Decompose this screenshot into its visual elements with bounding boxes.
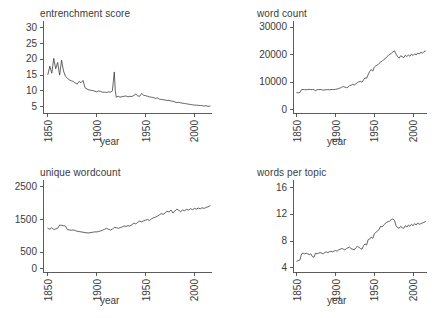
series-line-entrenchment-score: [48, 58, 210, 106]
xaxis-ticks-words-per-topic: 1850190019502000: [292, 272, 419, 301]
axes-entrenchment-score: [43, 21, 212, 113]
ytick-label: 4: [281, 262, 287, 273]
yaxis-ticks-entrenchment-score: 51015202530: [26, 22, 43, 112]
xaxis-ticks-entrenchment-score: 1850190019502000: [43, 113, 201, 142]
ytick-label: 8: [281, 235, 287, 246]
xtick-label: 2000: [408, 120, 419, 143]
xtick-label: 1850: [43, 120, 54, 143]
ytick-label: 10000: [259, 76, 287, 87]
yaxis-ticks-word-count: 0100002000030000: [259, 21, 293, 115]
xtick-label: 2000: [189, 279, 200, 302]
ytick-label: 15: [26, 69, 38, 80]
xtick-label: 1950: [141, 279, 152, 302]
xaxis-label-unique-wordcount: year: [100, 295, 119, 306]
chart-svg-word-count: 01000020000300001850190019502000: [215, 0, 435, 159]
ytick-label: 0: [281, 104, 287, 115]
xtick-label: 2000: [189, 120, 200, 143]
xaxis-label-word-count: year: [327, 136, 346, 147]
xaxis-label-entrenchment-score: year: [100, 136, 119, 147]
ytick-label: 0: [31, 263, 37, 274]
xtick-label: 2000: [408, 279, 419, 302]
plot-word-count: 01000020000300001850190019502000: [215, 0, 435, 159]
xaxis-ticks-word-count: 1850190019502000: [292, 113, 419, 142]
ytick-label: 30000: [259, 21, 287, 32]
xtick-label: 1950: [369, 279, 380, 302]
ytick-label: 25: [26, 38, 38, 49]
ytick-label: 10: [26, 85, 38, 96]
ytick-label: 2500: [15, 181, 38, 192]
series-line-word-count: [297, 51, 426, 93]
ytick-label: 12: [276, 208, 288, 219]
chart-svg-words-per-topic: 4812161850190019502000: [215, 159, 435, 318]
yaxis-ticks-words-per-topic: 481216: [276, 182, 293, 274]
xaxis-ticks-unique-wordcount: 1850190019502000: [43, 272, 201, 301]
chart-panel-unique-wordcount: unique wordcount 05001500250018501900195…: [0, 159, 220, 318]
ytick-label: 1500: [15, 214, 38, 225]
xtick-label: 1850: [292, 120, 303, 143]
xtick-label: 1850: [292, 279, 303, 302]
ytick-label: 5: [31, 101, 37, 112]
multi-panel-figure: entrenchment score 510152025301850190019…: [0, 0, 435, 318]
ytick-label: 500: [20, 246, 37, 257]
xtick-label: 1850: [43, 279, 54, 302]
xaxis-label-words-per-topic: year: [327, 295, 346, 306]
yaxis-ticks-unique-wordcount: 050015002500: [15, 181, 43, 274]
axes-words-per-topic: [293, 180, 427, 272]
chart-panel-entrenchment-score: entrenchment score 510152025301850190019…: [0, 0, 220, 159]
xtick-label: 1950: [369, 120, 380, 143]
series-line-unique-wordcount: [48, 206, 210, 233]
ytick-label: 20: [26, 53, 38, 64]
series-line-words-per-topic: [297, 219, 426, 261]
chart-panel-words-per-topic: words per topic 4812161850190019502000 y…: [215, 159, 435, 318]
axes-word-count: [293, 21, 427, 113]
xtick-label: 1950: [141, 120, 152, 143]
chart-panel-word-count: word count 01000020000300001850190019502…: [215, 0, 435, 159]
plot-words-per-topic: 4812161850190019502000: [215, 159, 435, 318]
ytick-label: 16: [276, 182, 288, 193]
ytick-label: 20000: [259, 49, 287, 60]
ytick-label: 30: [26, 22, 38, 33]
